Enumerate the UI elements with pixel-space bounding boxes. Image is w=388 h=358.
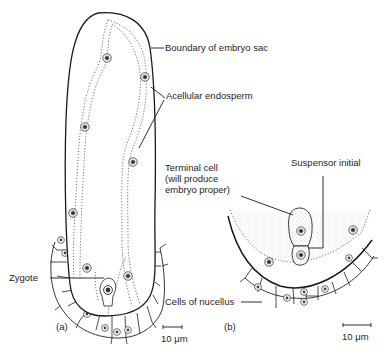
label-cells-of-nucellus: Cells of nucellus: [165, 296, 234, 307]
panel-a: [50, 13, 182, 344]
scale-bar-a: [163, 325, 182, 329]
panel-b: [228, 176, 378, 327]
label-suspensor-initial: Suspensor initial: [291, 157, 361, 168]
panel-b-tag: (b): [224, 321, 236, 332]
label-acellular-endosperm: Acellular endosperm: [166, 90, 253, 101]
scale-bar-a-label: 10 μm: [161, 333, 188, 344]
proembryo: [289, 208, 313, 265]
label-boundary-of-embryo-sac: Boundary of embryo sac: [165, 42, 268, 53]
scale-bar-b-label: 10 μm: [342, 331, 369, 342]
label-zygote: Zygote: [9, 272, 38, 283]
label-terminal-cell: Terminal cell (will produce embryo prope…: [165, 162, 230, 195]
scale-bar-b: [343, 323, 371, 327]
panel-a-tag: (a): [56, 321, 68, 332]
